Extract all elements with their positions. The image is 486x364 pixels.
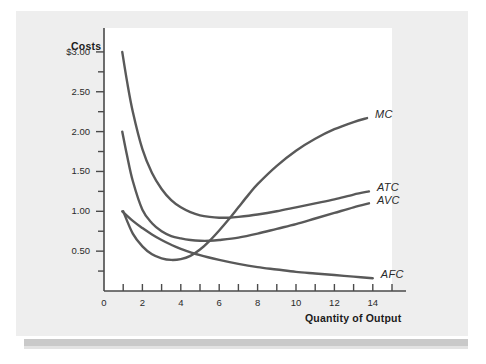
x-tick-label: 8	[248, 297, 268, 308]
curve-atc	[122, 52, 369, 218]
x-tick-label: 12	[324, 297, 344, 308]
curve-label-atc: ATC	[377, 181, 399, 193]
x-tick-label: 4	[171, 297, 191, 308]
x-tick-label: 14	[363, 297, 383, 308]
y-tick-label: 0.50	[50, 245, 90, 256]
x-tick-label: 2	[132, 297, 152, 308]
x-tick-label: 10	[286, 297, 306, 308]
x-tick-label: 6	[209, 297, 229, 308]
cost-curves-group	[122, 52, 373, 278]
y-tick-label: $3.00	[50, 46, 90, 57]
y-tick-label: 1.50	[50, 165, 90, 176]
cost-curves-figure: Costs Quantity of Output $3.002.502.001.…	[0, 0, 486, 364]
x-axis-tick-marks	[123, 284, 392, 291]
x-axis-title: Quantity of Output	[305, 312, 401, 324]
x-tick-label: 0	[94, 297, 114, 308]
y-tick-label: 2.50	[50, 86, 90, 97]
y-tick-label: 2.00	[50, 126, 90, 137]
curve-label-avc: AVC	[377, 194, 400, 206]
curve-label-afc: AFC	[381, 268, 404, 280]
curve-afc	[122, 211, 373, 278]
y-axis-tick-marks	[96, 52, 104, 271]
curve-label-mc: MC	[375, 108, 393, 120]
y-tick-label: 1.00	[50, 205, 90, 216]
